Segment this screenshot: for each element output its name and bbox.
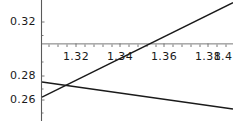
x-tick-label-1: 1.34: [100, 50, 140, 63]
y-tick-label-2: 0.26: [2, 93, 36, 106]
y-tick-label-1: 0.28: [2, 69, 36, 82]
y-tick-label-0: 0.32: [2, 15, 36, 28]
x-tick-label-2: 1.36: [144, 50, 184, 63]
chart-container: 0.32 0.28 0.26 1.32 1.34 1.36 1.38 1.4: [0, 0, 233, 121]
x-tick-label-4: 1.4: [210, 50, 233, 63]
x-tick-label-0: 1.32: [56, 50, 96, 63]
series-falling-line: [42, 82, 233, 109]
